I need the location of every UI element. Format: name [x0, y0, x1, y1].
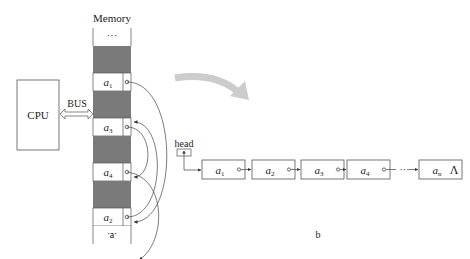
memory-link-arrows — [127, 82, 167, 259]
bus-label: BUS — [67, 98, 86, 109]
memory-link-2-to-3 — [127, 122, 157, 217]
caption-b: b — [316, 229, 321, 240]
memory-used-cell — [93, 46, 131, 73]
diagram-b: head a1a2a3a4···anΛ b — [175, 138, 462, 240]
linked-list: a1a2a3a4···anΛ — [202, 160, 462, 179]
memory-column: ···a1a3a4a2··· — [93, 28, 131, 244]
memory-ellipsis: ··· — [107, 30, 117, 41]
transition-arrow-shaft — [175, 77, 238, 92]
list-pointer-dot — [287, 168, 290, 171]
memory-title: Memory — [93, 12, 131, 24]
list-gap-ellipsis: ··· — [400, 164, 410, 175]
bus-double-arrow-icon — [60, 109, 93, 119]
memory-used-cell — [93, 91, 131, 118]
memory-link-1-to-2 — [127, 82, 167, 222]
linked-list-memory-diagram: Memory CPU BUS ···a1a3a4a2··· a head a1a… — [0, 0, 470, 259]
diagram-a: Memory CPU BUS ···a1a3a4a2··· a — [17, 12, 167, 259]
list-pointer-dot — [336, 168, 339, 171]
head-label: head — [175, 138, 194, 149]
memory-used-cell — [93, 181, 131, 208]
null-pointer-icon: Λ — [450, 163, 459, 177]
memory-used-cell — [93, 136, 131, 163]
list-pointer-dot — [382, 168, 385, 171]
cpu-label: CPU — [27, 109, 48, 121]
caption-a: a — [110, 229, 115, 240]
list-pointer-dot — [237, 168, 240, 171]
memory-link-4-to-next — [127, 172, 159, 259]
